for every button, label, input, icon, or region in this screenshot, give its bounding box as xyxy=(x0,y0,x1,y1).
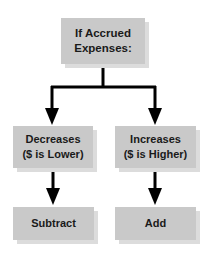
decreases-node: Decreases ($ is Lower) xyxy=(13,126,93,168)
subtract-node: Subtract xyxy=(13,207,94,240)
root-node-line2: Expenses: xyxy=(74,41,132,56)
decreases-line2: ($ is Lower) xyxy=(22,147,83,162)
subtract-label: Subtract xyxy=(31,216,76,231)
root-node: If Accrued Expenses: xyxy=(61,18,145,64)
increases-line2: ($ is Higher) xyxy=(124,147,188,162)
add-label: Add xyxy=(145,216,166,231)
increases-node: Increases ($ is Higher) xyxy=(115,126,196,168)
root-node-line1: If Accrued xyxy=(74,26,132,41)
increases-line1: Increases xyxy=(124,132,188,147)
decreases-line1: Decreases xyxy=(22,132,83,147)
add-node: Add xyxy=(115,207,196,240)
